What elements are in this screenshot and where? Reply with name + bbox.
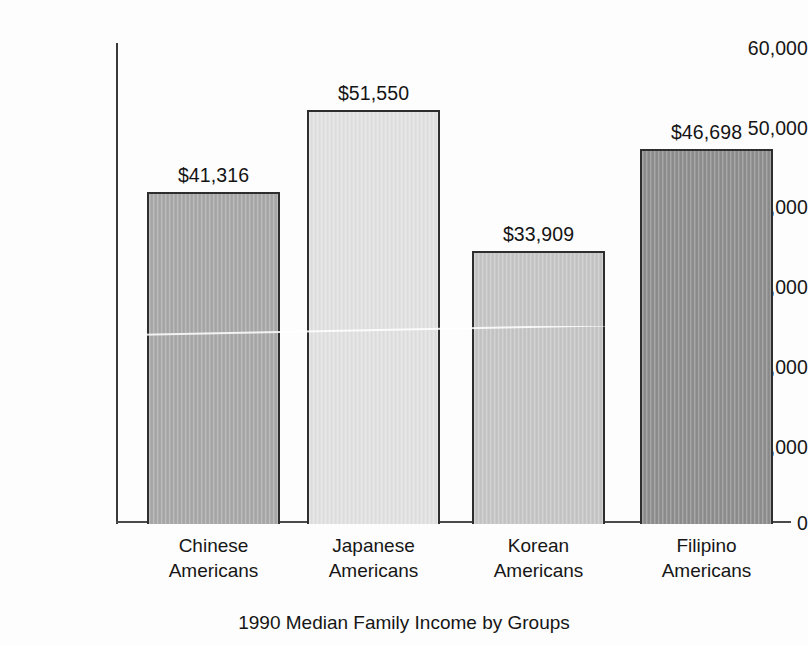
- x-tick-label-chinese-americans: Chinese Americans: [137, 533, 290, 583]
- x-tick-label-line-2: Americans: [630, 558, 783, 583]
- x-tick-label-korean-americans: Korean Americans: [462, 533, 615, 583]
- x-tick-label-line-1: Filipino: [630, 533, 783, 558]
- chart-caption: 1990 Median Family Income by Groups: [0, 612, 808, 634]
- bar-chinese-americans: [147, 192, 280, 524]
- bar-value-japanese-americans: $51,550: [307, 82, 440, 105]
- x-tick-label-japanese-americans: Japanese Americans: [297, 533, 450, 583]
- x-tick-label-line-2: Americans: [297, 558, 450, 583]
- x-tick-label-line-2: Americans: [137, 558, 290, 583]
- x-tick-label-line-1: Chinese: [137, 533, 290, 558]
- bar-value-korean-americans: $33,909: [472, 223, 605, 246]
- y-axis-line: [116, 43, 118, 524]
- bar-value-chinese-americans: $41,316: [147, 164, 280, 187]
- x-tick-label-line-2: Americans: [462, 558, 615, 583]
- x-tick-label-line-1: Japanese: [297, 533, 450, 558]
- bar-japanese-americans: [307, 110, 440, 524]
- y-tick-label-60000: 60,000: [712, 37, 808, 60]
- bar-filipino-americans: [640, 149, 773, 524]
- x-tick-label-line-1: Korean: [462, 533, 615, 558]
- bar-korean-americans: [472, 251, 605, 524]
- x-tick-label-filipino-americans: Filipino Americans: [630, 533, 783, 583]
- bar-chart-figure: 60,000 50,000 40,000 30,000 20,000 10,00…: [0, 0, 808, 645]
- bar-value-filipino-americans: $46,698: [640, 121, 773, 144]
